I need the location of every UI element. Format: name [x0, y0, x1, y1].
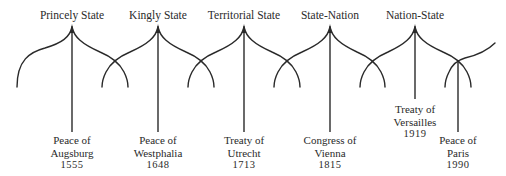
event-vienna: Congress of Vienna 1815 — [304, 134, 357, 172]
event-year: 1815 — [304, 159, 357, 172]
event-line1: Treaty of — [394, 103, 437, 116]
event-utrecht: Treaty of Utrecht 1713 — [224, 134, 264, 172]
arc-start — [17, 27, 72, 87]
event-line2: Versailles — [394, 116, 437, 129]
event-line2: Augsburg — [50, 147, 93, 160]
event-line1: Peace of — [134, 134, 183, 147]
event-year: 1555 — [50, 159, 93, 172]
state-label-nation-state: Nation-State — [386, 9, 444, 22]
peak-2 — [156, 24, 160, 33]
peak-3 — [242, 24, 246, 33]
event-year: 1990 — [439, 159, 477, 172]
event-westphalia: Peace of Westphalia 1648 — [134, 134, 183, 172]
event-line1: Congress of — [304, 134, 357, 147]
peak-5 — [413, 24, 417, 33]
state-label-state-nation: State-Nation — [301, 9, 359, 22]
event-augsburg: Peace of Augsburg 1555 — [50, 134, 93, 172]
arc-4-right — [330, 27, 385, 87]
event-versailles: Treaty of Versailles 1919 — [394, 103, 437, 141]
event-year: 1919 — [394, 128, 437, 141]
event-line1: Peace of — [50, 134, 93, 147]
peak-1 — [70, 24, 74, 33]
arc-4-left — [360, 27, 415, 87]
event-line1: Treaty of — [224, 134, 264, 147]
event-line2: Paris — [439, 147, 477, 160]
state-label-territorial: Territorial State — [208, 9, 280, 22]
peak-4 — [328, 24, 332, 33]
state-label-princely: Princely State — [40, 9, 104, 22]
event-line1: Peace of — [439, 134, 477, 147]
event-line2: Vienna — [304, 147, 357, 160]
event-paris: Peace of Paris 1990 — [439, 134, 477, 172]
event-line2: Westphalia — [134, 147, 183, 160]
event-line2: Utrecht — [224, 147, 264, 160]
state-label-kingly: Kingly State — [129, 9, 187, 22]
arc-5-right — [415, 27, 471, 87]
event-year: 1648 — [134, 159, 183, 172]
event-year: 1713 — [224, 159, 264, 172]
